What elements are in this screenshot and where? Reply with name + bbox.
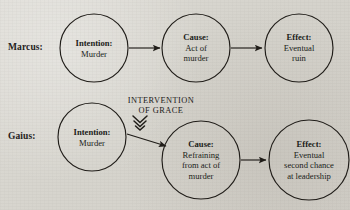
- node-text-gaius-effect: Effect: Eventual second chance at leader…: [284, 139, 334, 181]
- node-text-marcus-effect: Effect: Eventual ruin: [284, 32, 315, 64]
- node-body-line: ruin: [284, 53, 315, 64]
- arrow-gaius-intention-to-cause: [127, 134, 166, 146]
- node-body-line: Murder: [76, 48, 113, 59]
- diagram-canvas: Marcus: Gaius: Intention: Murder Cause: …: [0, 0, 350, 210]
- node-text-gaius-cause: Cause: Refraining from act of murder: [182, 139, 220, 181]
- node-heading: Cause:: [183, 32, 208, 43]
- node-heading: Intention:: [74, 127, 111, 138]
- node-heading: Cause:: [182, 139, 220, 150]
- node-body-line: Eventual: [284, 150, 334, 161]
- node-heading: Effect:: [284, 139, 334, 150]
- node-text-marcus-cause: Cause: Act of murder: [183, 32, 208, 64]
- node-body-line: from act of: [182, 160, 220, 171]
- node-body-line: Murder: [74, 137, 111, 148]
- row-label-marcus: Marcus:: [8, 42, 43, 52]
- annotation-line-1: INTERVENTION: [100, 96, 222, 106]
- node-heading: Effect:: [284, 32, 315, 43]
- node-text-gaius-intention: Intention: Murder: [74, 127, 111, 148]
- node-text-marcus-intention: Intention: Murder: [76, 38, 113, 59]
- node-body-line: Eventual: [284, 43, 315, 54]
- annotation-intervention-of-grace: INTERVENTION OF GRACE: [100, 96, 222, 116]
- row-label-gaius: Gaius:: [8, 131, 36, 141]
- node-heading: Intention:: [76, 38, 113, 49]
- node-body-line: second chance: [284, 160, 334, 171]
- node-body-line: murder: [182, 171, 220, 182]
- node-body-line: Refraining: [182, 150, 220, 161]
- node-body-line: at leadership: [284, 171, 334, 182]
- double-chevron-down-icon: [133, 116, 147, 130]
- annotation-line-2: OF GRACE: [100, 106, 222, 116]
- node-body-line: murder: [183, 53, 208, 64]
- node-body-line: Act of: [183, 43, 208, 54]
